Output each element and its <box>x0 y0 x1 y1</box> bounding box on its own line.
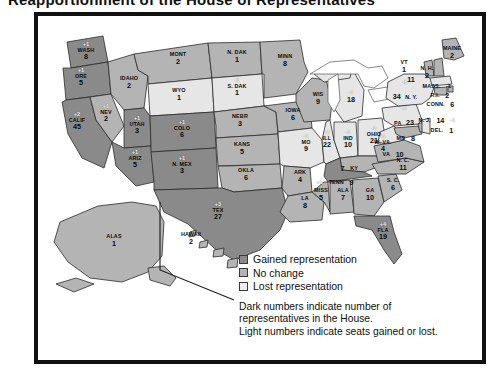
state-shape-alaska <box>54 202 164 282</box>
legend-label-lost: Lost representation <box>253 280 343 292</box>
legend-label-no-change: No change <box>253 267 304 279</box>
state-shape-colo <box>150 112 216 152</box>
state-shape-nh <box>434 58 444 76</box>
map-figure: Reapportionment of the House of Represen… <box>0 0 491 374</box>
state-shape-wyo <box>148 78 214 116</box>
state-shape-okla <box>218 164 282 192</box>
legend-note-line-3: Light numbers indicate seats gained or l… <box>239 326 475 339</box>
state-shape-ny <box>386 74 436 106</box>
state-shape-maine <box>442 38 464 60</box>
legend-label-gained: Gained representation <box>253 253 357 265</box>
state-shape-utah <box>124 108 151 148</box>
state-shape-nmex <box>151 148 218 190</box>
state-shape-sdak <box>212 74 264 112</box>
state-shape-ga <box>352 178 384 216</box>
legend-item-no-change: No change <box>239 267 475 280</box>
state-shape-ndak <box>208 42 262 78</box>
legend-note: Dark numbers indicate number of represen… <box>239 301 475 339</box>
legend-item-lost: Lost representation <box>239 280 475 293</box>
figure-title: Reapportionment of the House of Represen… <box>8 0 375 8</box>
legend-swatch-lost <box>239 282 248 291</box>
state-shape-mass <box>430 76 452 86</box>
state-shape-ala <box>330 180 354 214</box>
state-shape-kans <box>216 134 280 166</box>
state-shape-mo <box>278 128 324 168</box>
legend-swatch-no-change <box>239 268 248 277</box>
legend: Gained representation No change Lost rep… <box>239 253 475 338</box>
state-shape-ore <box>63 62 111 100</box>
state-shape-conn <box>434 87 447 95</box>
state-shape-nj <box>422 118 430 134</box>
state-shape-ark <box>282 166 312 196</box>
state-shape-pa <box>382 104 422 126</box>
alaska-panhandle <box>148 266 176 286</box>
state-shape-nebr <box>214 106 278 138</box>
state-shape-ariz <box>112 142 154 186</box>
state-shape-ri <box>448 86 453 92</box>
legend-note-line-1: Dark numbers indicate number of <box>239 301 475 314</box>
state-shape-vt <box>424 60 434 76</box>
figure-frame: .g{fill:#8a8a8a;stroke:#2b2b2b;stroke-wi… <box>34 12 486 364</box>
legend-note-line-2: representatives in the House. <box>239 313 475 326</box>
figure-title-clipped: Reapportionment of the House of Represen… <box>0 0 491 12</box>
legend-item-gained: Gained representation <box>239 253 475 266</box>
legend-swatch-gained <box>239 255 248 264</box>
alaska-aleutians <box>56 278 94 292</box>
